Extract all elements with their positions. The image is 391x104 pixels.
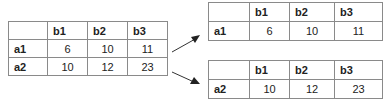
- column-header-b2: b2: [290, 3, 335, 22]
- cell: 11: [335, 22, 383, 41]
- table-row: a1 6 10 11: [209, 22, 383, 41]
- cell: 10: [290, 22, 335, 41]
- row-header-a1: a1: [209, 22, 250, 41]
- header-row: b1 b2 b3: [209, 61, 383, 80]
- header-row: b1 b2 b3: [209, 3, 383, 22]
- split-table-a2: b1 b2 b3 a2 10 12 23: [208, 60, 383, 99]
- split-table-a1: b1 b2 b3 a1 6 10 11: [208, 2, 383, 41]
- cell: 23: [335, 80, 383, 99]
- column-header-b1: b1: [250, 3, 290, 22]
- row-header-a2: a2: [209, 80, 250, 99]
- arrow-down-right-icon: [172, 72, 200, 84]
- column-header-b1: b1: [250, 61, 290, 80]
- column-header-b3: b3: [335, 3, 383, 22]
- cell: 6: [250, 22, 290, 41]
- column-header-b2: b2: [290, 61, 335, 80]
- corner-cell: [209, 3, 250, 22]
- cell: 12: [290, 80, 335, 99]
- cell: 10: [250, 80, 290, 99]
- corner-cell: [209, 61, 250, 80]
- arrow-up-right-icon: [172, 35, 200, 52]
- table-row: a2 10 12 23: [209, 80, 383, 99]
- column-header-b3: b3: [335, 61, 383, 80]
